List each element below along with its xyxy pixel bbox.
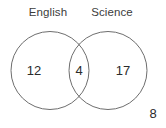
count-neither: 8 bbox=[149, 106, 156, 121]
count-english-only: 12 bbox=[27, 63, 41, 78]
venn-circles-graphic bbox=[0, 0, 166, 128]
count-both: 4 bbox=[75, 63, 82, 78]
count-science-only: 17 bbox=[116, 63, 130, 78]
set-label-english: English bbox=[29, 6, 67, 18]
set-label-science: Science bbox=[91, 6, 133, 18]
venn-diagram: English Science 12 4 17 8 bbox=[0, 0, 166, 128]
